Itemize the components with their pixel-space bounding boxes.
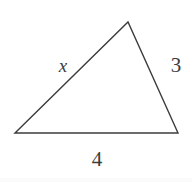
bottom-band bbox=[0, 178, 192, 182]
triangle-figure: x 3 4 bbox=[0, 0, 192, 182]
side-label-x: x bbox=[52, 56, 74, 75]
side-label-3: 3 bbox=[165, 55, 187, 76]
side-label-4: 4 bbox=[86, 149, 108, 170]
